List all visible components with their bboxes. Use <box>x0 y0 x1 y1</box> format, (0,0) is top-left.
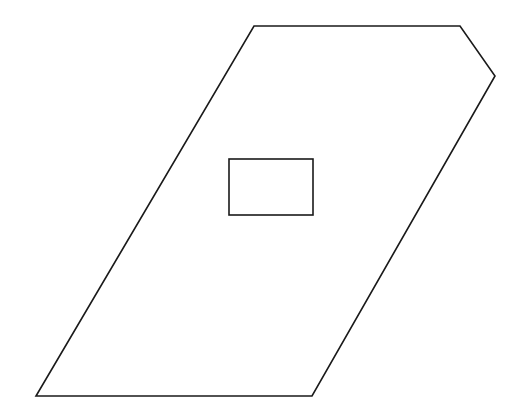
diagram-canvas <box>0 0 511 416</box>
inner-rectangle-shape <box>229 159 313 215</box>
diagram-svg <box>0 0 511 416</box>
outer-pentagon-shape <box>36 26 495 396</box>
